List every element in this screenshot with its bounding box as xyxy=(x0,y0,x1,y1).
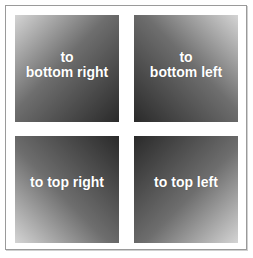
panel-label: to bottom right xyxy=(26,50,108,80)
panel-to-bottom-right: to bottom right xyxy=(15,15,119,122)
label-line-2: bottom right xyxy=(26,64,108,80)
panel-label: to bottom left xyxy=(150,50,222,80)
panel-label: to top right xyxy=(30,175,104,190)
panel-to-top-right: to top right xyxy=(15,136,119,243)
panel-to-bottom-left: to bottom left xyxy=(134,15,238,122)
panel-to-top-left: to top left xyxy=(134,136,238,243)
label-line-1: to xyxy=(179,49,192,65)
label-line-2: bottom left xyxy=(150,64,222,80)
label-line-1: to xyxy=(60,49,73,65)
gradient-demo-frame: to bottom right to bottom left to top ri… xyxy=(5,5,247,250)
panel-label: to top left xyxy=(154,175,218,190)
